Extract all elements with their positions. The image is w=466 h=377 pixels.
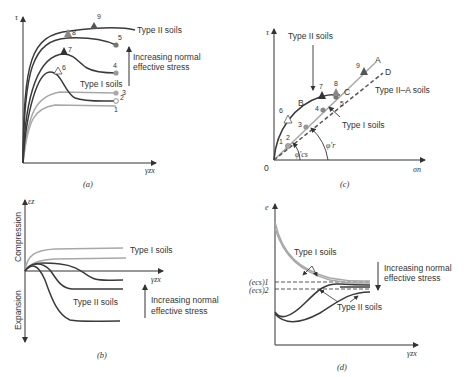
a-point-4-marker: [113, 70, 118, 75]
panel-a: τ γzx 9 8 7 6 5 4 3 2 1 Type II soils Ty…: [15, 13, 201, 189]
c-x-axis-label: σn: [413, 165, 421, 174]
b-stress-label-1: Increasing normal: [151, 295, 219, 305]
a-curve-9: [23, 27, 135, 163]
c-point-6-label: 6: [279, 107, 283, 114]
c-y-axis-label: τ: [266, 28, 270, 37]
d-caption: (d): [337, 362, 347, 372]
a-stress-label-1: Increasing normal: [133, 52, 201, 62]
c-label-A: A: [375, 55, 381, 65]
a-caption: (a): [83, 179, 93, 189]
c-phi-r-label: φ'r: [326, 141, 336, 150]
a-y-axis-label: τ: [15, 13, 19, 22]
b-type1-label: Type I soils: [130, 245, 173, 255]
c-type2a-label: Type II–A soils: [375, 85, 430, 95]
d-type2-label: Type II soils: [337, 302, 382, 312]
a-type2-label: Type II soils: [137, 25, 182, 35]
a-point-5-label: 5: [118, 34, 122, 41]
a-point-7-label: 7: [68, 46, 72, 53]
d-type2-arrow-1: [320, 290, 338, 302]
a-point-4-label: 4: [113, 62, 117, 69]
a-point-9-label: 9: [97, 13, 101, 20]
a-type1-label: Type I soils: [80, 79, 123, 89]
c-phi-cs-label: φ'cs: [295, 150, 308, 159]
c-point-5-label: 5: [340, 100, 344, 107]
d-stress-label-1: Increasing normal: [384, 263, 452, 273]
c-point-1-2-marker: [285, 143, 290, 148]
c-caption: (c): [340, 179, 350, 189]
c-point-2-label: 2: [286, 134, 290, 141]
c-type1-label: Type I soils: [342, 120, 385, 130]
a-point-6-marker: [54, 67, 62, 74]
b-type2-curve-3: [25, 266, 120, 321]
a-point-8-label: 8: [72, 29, 76, 36]
b-expansion-label: Expansion: [13, 290, 23, 330]
d-x-axis-label: γzx: [407, 349, 417, 358]
c-point-3-marker: [303, 124, 308, 129]
a-point-7-marker: [60, 47, 68, 55]
a-curve-3: [23, 92, 116, 163]
c-label-C: C: [344, 87, 350, 97]
b-y-axis-label: εz: [28, 197, 35, 206]
d-y-axis-label: e: [265, 203, 269, 212]
c-label-B: B: [298, 98, 304, 108]
c-type2-label: Type II soils: [288, 31, 333, 41]
panel-b: εz γzx Compression Expansion Type I soil…: [13, 197, 219, 360]
a-curve-1: [23, 105, 116, 163]
a-point-2-marker: [114, 99, 119, 104]
c-point-8-marker: [332, 88, 340, 96]
c-point-8-label: 8: [334, 80, 338, 87]
c-point-4-label: 4: [315, 105, 319, 112]
c-point-9-label: 9: [356, 62, 360, 69]
b-type2-label: Type II soils: [73, 297, 118, 307]
b-caption: (b): [97, 350, 107, 360]
soil-behaviour-figure: τ γzx 9 8 7 6 5 4 3 2 1 Type II soils Ty…: [0, 0, 466, 377]
b-compression-label: Compression: [13, 212, 23, 262]
b-x-axis-label: γzx: [151, 275, 161, 284]
d-type1-label: Type I soils: [294, 247, 337, 257]
b-stress-label-2: effective stress: [151, 306, 208, 316]
a-curve-7: [23, 54, 116, 163]
a-point-6-label: 6: [62, 64, 66, 71]
c-point-4-marker: [320, 107, 325, 112]
c-point-7-label: 7: [319, 83, 323, 90]
c-point-1-label: 1: [279, 138, 283, 145]
panel-d: e γzx (ecs)1 (ecs)2 Type I soils Type II…: [249, 203, 452, 372]
a-point-9-marker: [90, 22, 98, 29]
a-x-axis-label: γzx: [145, 166, 155, 175]
c-label-D: D: [385, 67, 391, 77]
c-origin-label: 0: [264, 163, 269, 173]
a-stress-label-2: effective stress: [133, 62, 190, 72]
d-ecs2-label: (ecs)2: [249, 286, 269, 295]
a-point-5-marker: [113, 42, 118, 47]
d-stress-label-2: effective stress: [384, 273, 441, 283]
a-point-2-label: 2: [120, 94, 124, 101]
panel-c: τ σn 0 1 2 3 4 5 6 7 8 9 A B C: [264, 28, 430, 189]
a-point-1-label: 1: [114, 106, 118, 113]
c-point-3-label: 3: [298, 121, 302, 128]
a-point-3-marker: [113, 90, 118, 95]
